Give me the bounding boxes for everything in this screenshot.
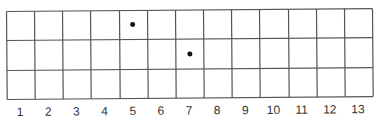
column-label: 5 bbox=[119, 103, 147, 119]
column-label: 7 bbox=[175, 102, 203, 118]
grid-diagram: 12345678910111213 bbox=[0, 0, 377, 132]
column-label: 1 bbox=[6, 104, 34, 120]
column-label: 12 bbox=[316, 101, 344, 117]
column-label: 4 bbox=[90, 103, 118, 119]
column-labels: 12345678910111213 bbox=[6, 101, 372, 122]
column-label: 6 bbox=[147, 103, 175, 119]
column-label: 10 bbox=[259, 102, 287, 118]
grid bbox=[6, 8, 373, 99]
column-label: 9 bbox=[231, 102, 259, 118]
column-label: 11 bbox=[288, 102, 316, 118]
column-label: 3 bbox=[62, 103, 90, 119]
column-label: 13 bbox=[344, 101, 372, 117]
dot-marker bbox=[187, 51, 192, 56]
column-label: 2 bbox=[34, 104, 62, 120]
column-label: 8 bbox=[203, 102, 231, 118]
